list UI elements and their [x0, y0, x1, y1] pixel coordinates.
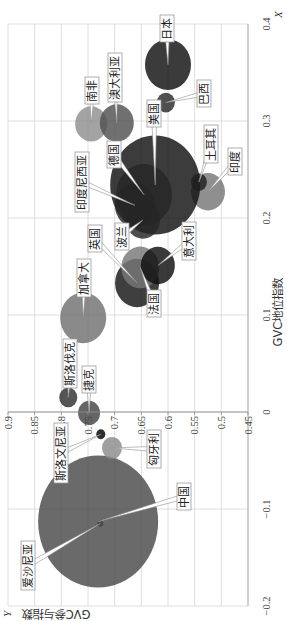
- y-tick-label: 0.65: [136, 416, 147, 434]
- data-label-text: 法国: [147, 293, 161, 315]
- data-label-text: 印度尼西亚: [75, 155, 89, 210]
- data-label-text: 匈牙利: [147, 433, 161, 466]
- data-label-text: 中国: [178, 486, 191, 508]
- data-label-text: 日本: [160, 18, 174, 40]
- y-tick-label: 0.75: [83, 416, 94, 434]
- y-tick-label: 0.5: [216, 416, 227, 429]
- data-label-text: 意大利: [182, 225, 196, 258]
- data-label-text: 印度: [228, 151, 242, 173]
- data-label-text: 捷克: [82, 369, 96, 391]
- y-axis-title: GVC参与指数: [21, 607, 91, 621]
- x-tick-label: 0.4: [261, 17, 272, 31]
- bubbles: [38, 39, 225, 587]
- y-tick-label: 0.6: [163, 416, 174, 429]
- data-label-text: 美国: [148, 103, 161, 125]
- data-label-text: 巴西: [198, 83, 211, 105]
- y-tick-label: 0.9: [3, 416, 14, 429]
- data-label-text: 斯洛伐克: [63, 342, 77, 386]
- data-label-text: 德国: [107, 144, 121, 166]
- x-tick-label: 0: [261, 409, 272, 414]
- x-tick-label: 0.2: [261, 211, 272, 224]
- chart-canvas: 0.450.50.550.60.650.70.750.80.850.9−0.2−…: [0, 0, 287, 621]
- data-label-text: 土耳其: [205, 128, 218, 161]
- y-axis-letter: Y: [1, 609, 13, 617]
- data-label-text: 波兰: [116, 226, 129, 248]
- data-label-text: 加拿大: [77, 262, 91, 295]
- rotated-bubble-chart: 0.450.50.550.60.650.70.750.80.850.9−0.2−…: [0, 0, 287, 621]
- y-tick-label: 0.85: [29, 416, 40, 434]
- x-tick-label: 0.3: [261, 114, 272, 127]
- x-tick-label: −0.1: [261, 499, 272, 518]
- data-label-text: 南非: [86, 80, 99, 102]
- data-label-text: 英国: [88, 228, 102, 250]
- data-label-text: 爱沙尼亚: [22, 544, 35, 588]
- x-tick-label: −0.2: [261, 596, 272, 615]
- data-label-text: 澳大利亚: [108, 56, 122, 100]
- data-label-text: 斯洛文尼亚: [54, 426, 68, 481]
- x-axis-letter: X: [272, 10, 284, 19]
- y-tick-label: 0.55: [189, 416, 200, 434]
- y-tick-label: 0.45: [243, 416, 254, 434]
- x-axis-title: GVC地位指数: [271, 277, 285, 347]
- y-tick-label: 0.7: [109, 416, 120, 429]
